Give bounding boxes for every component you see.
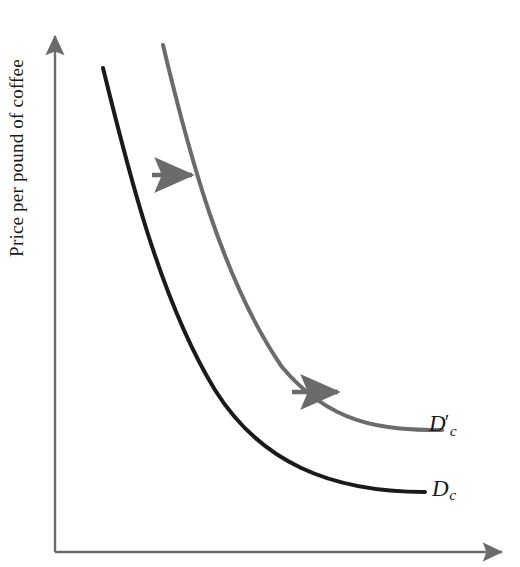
demand-curve-figure: Price per pound of coffee D′c Dc — [0, 0, 520, 567]
curve-label-dc-prime: D′c — [429, 412, 457, 438]
demand-curve-dc — [103, 68, 425, 492]
y-axis-label: Price per pound of coffee — [0, 38, 34, 278]
curve-label-dc-letter: D — [432, 476, 449, 501]
curve-label-dc-prime-subscript: c — [450, 422, 457, 439]
curve-label-dc-prime-mark: ′ — [445, 411, 450, 433]
curve-label-dc-prime-letter: D — [429, 411, 446, 436]
curve-label-dc-subscript: c — [449, 486, 456, 503]
curve-label-dc: Dc — [432, 477, 456, 503]
